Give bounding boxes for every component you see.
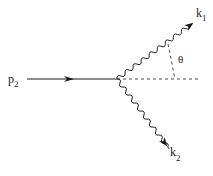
incoming-line-p2 — [27, 76, 117, 82]
outgoing-photon-k2 — [114, 77, 172, 151]
label-p2: p2 — [8, 72, 19, 89]
angle-marker-line — [168, 44, 175, 79]
outgoing-photon-k1 — [115, 20, 196, 82]
label-k2: k2 — [170, 145, 181, 163]
feynman-diagram: p2 k1 k2 θ — [0, 0, 213, 176]
label-k1: k1 — [196, 6, 207, 23]
label-theta: θ — [178, 53, 183, 65]
